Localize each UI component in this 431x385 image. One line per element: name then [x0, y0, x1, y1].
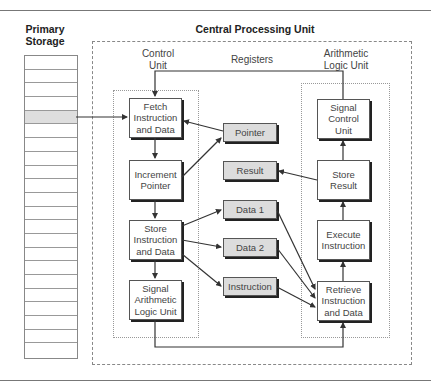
connector-arrows	[0, 0, 431, 385]
